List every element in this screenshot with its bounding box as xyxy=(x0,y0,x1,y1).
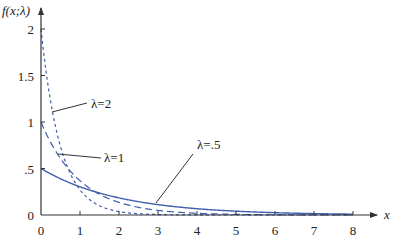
axes: 012345678 0.511.52 x f(x;λ) xyxy=(2,3,390,238)
y-tick-label: 1 xyxy=(28,115,35,130)
x-tick-label: 0 xyxy=(38,223,45,238)
y-tick-label: 0 xyxy=(28,208,35,223)
exponential-pdf-chart: 012345678 0.511.52 x f(x;λ) λ=2 λ=1 λ=.5 xyxy=(0,0,401,243)
x-tick-label: 5 xyxy=(233,223,240,238)
annotation-lambda-0.5: λ=.5 xyxy=(197,137,220,152)
leader-lambda-0.5 xyxy=(156,154,193,203)
x-tick-label: 1 xyxy=(77,223,84,238)
y-tick-label: 1.5 xyxy=(18,69,34,84)
leader-lambda-2 xyxy=(52,103,87,112)
y-tick-label: .5 xyxy=(24,162,34,177)
x-tick-label: 8 xyxy=(350,223,357,238)
annotation-lambda-2: λ=2 xyxy=(91,96,111,111)
x-tick-label: 4 xyxy=(194,223,201,238)
x-tick-label: 3 xyxy=(155,223,162,238)
x-tick-label: 2 xyxy=(116,223,123,238)
x-tick-label: 7 xyxy=(311,223,318,238)
annotation-lambda-1: λ=1 xyxy=(104,150,124,165)
y-tick-label: 2 xyxy=(28,22,35,37)
leader-lambda-1 xyxy=(58,154,101,158)
x-axis-label: x xyxy=(383,207,390,222)
y-axis-label: f(x;λ) xyxy=(2,3,30,18)
curve-lambda-0.5 xyxy=(41,169,353,215)
curves xyxy=(41,29,353,215)
x-tick-label: 6 xyxy=(272,223,279,238)
curve-lambda-1 xyxy=(41,122,353,215)
